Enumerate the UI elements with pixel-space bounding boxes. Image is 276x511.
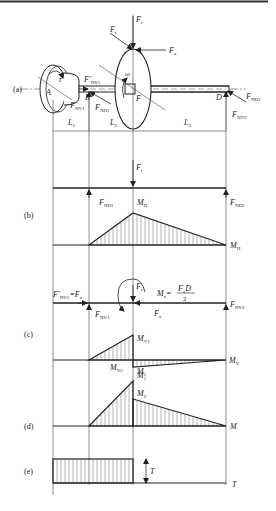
point-B-label: B xyxy=(85,93,90,102)
moment-Ma-arrow-icon xyxy=(118,279,145,311)
gear-hub xyxy=(125,84,135,94)
panel-c-label: (c) xyxy=(24,330,33,339)
moment-MV-axis-label: MV xyxy=(228,356,240,366)
panel-d-resultant-moment: (d) M1 M2 M xyxy=(24,371,238,431)
point-D-label: D xyxy=(215,93,222,102)
moment-MV1-label: MV1 xyxy=(136,334,150,344)
span-L2-label: L2 xyxy=(109,118,117,128)
force-Fa-label-c: Fa xyxy=(153,309,162,319)
force-FNH1-label: FNH1 xyxy=(94,103,110,113)
force-FNV1prime-label: F′NV1 xyxy=(83,75,101,85)
panel-c-vertical-plane: (c) F′NV1=Fa Fr Ma= FaD 2 FNV1 Fa FNV2 M… xyxy=(24,279,245,377)
force-Ft-arrow xyxy=(110,33,132,49)
moment-MH-peak-label: MH xyxy=(136,198,148,208)
torque-T-dim-label: T xyxy=(150,467,155,476)
force-FNV1-label-c: FNV1 xyxy=(94,310,110,320)
span-L1-label: L1 xyxy=(67,118,75,128)
force-FNH1-label-b: FNH1 xyxy=(98,198,114,208)
moment-M-axis-label: M xyxy=(229,422,238,431)
panel-b-label: (b) xyxy=(24,211,34,220)
force-FNV2-label: FNV2 xyxy=(231,110,247,120)
force-FNH2-label-b: FNH2 xyxy=(229,198,245,208)
force-FNV2-label-c: FNV2 xyxy=(229,300,245,310)
panel-a-label: (a) xyxy=(13,85,22,94)
svg-text:2: 2 xyxy=(183,295,187,303)
torque-T-axis-label: T xyxy=(232,480,237,489)
moment-MV2-label: MV2 xyxy=(109,363,123,373)
force-Ft-label: Ft xyxy=(109,25,117,35)
panel-b-horizontal-plane: (b) Ft FNH1 FNH2 MH MH xyxy=(24,160,245,251)
moment-Ma-formula: Ma= FaD 2 xyxy=(156,284,195,303)
force-FNH2-label: FNH2 xyxy=(245,92,261,102)
force-FNH1-arrow xyxy=(90,92,111,104)
moment-M2-label: M2 xyxy=(136,389,147,399)
panel-d-label: (d) xyxy=(24,422,34,431)
force-Fa-label: Fa xyxy=(168,46,177,56)
moment-MH-axis-label: MH xyxy=(229,241,241,251)
omega-label: ω xyxy=(125,70,130,78)
force-Fr-label: Fr xyxy=(135,15,143,25)
panel-e-torque: (e) T T xyxy=(24,459,237,489)
point-F-label: F xyxy=(135,94,141,103)
panel-e-label: (e) xyxy=(24,467,33,476)
moment-MH-diagram xyxy=(53,213,226,245)
span-L3-label: L3 xyxy=(183,118,191,128)
force-FNV1-eq-label: F′NV1=Fa xyxy=(52,290,83,300)
shaft-load-diagram: (a) A B F D ω T Fr Ft Fa F′NV1 FNV1 FNH1… xyxy=(0,0,276,511)
svg-text:Ma=: Ma= xyxy=(156,289,171,299)
svg-text:FaD: FaD xyxy=(177,284,191,294)
force-FNH2-arrow xyxy=(228,91,246,102)
force-FNV1-label: FNV1 xyxy=(69,101,85,111)
force-Ft-label-b: Ft xyxy=(135,163,143,173)
point-A-label: A xyxy=(45,88,51,97)
